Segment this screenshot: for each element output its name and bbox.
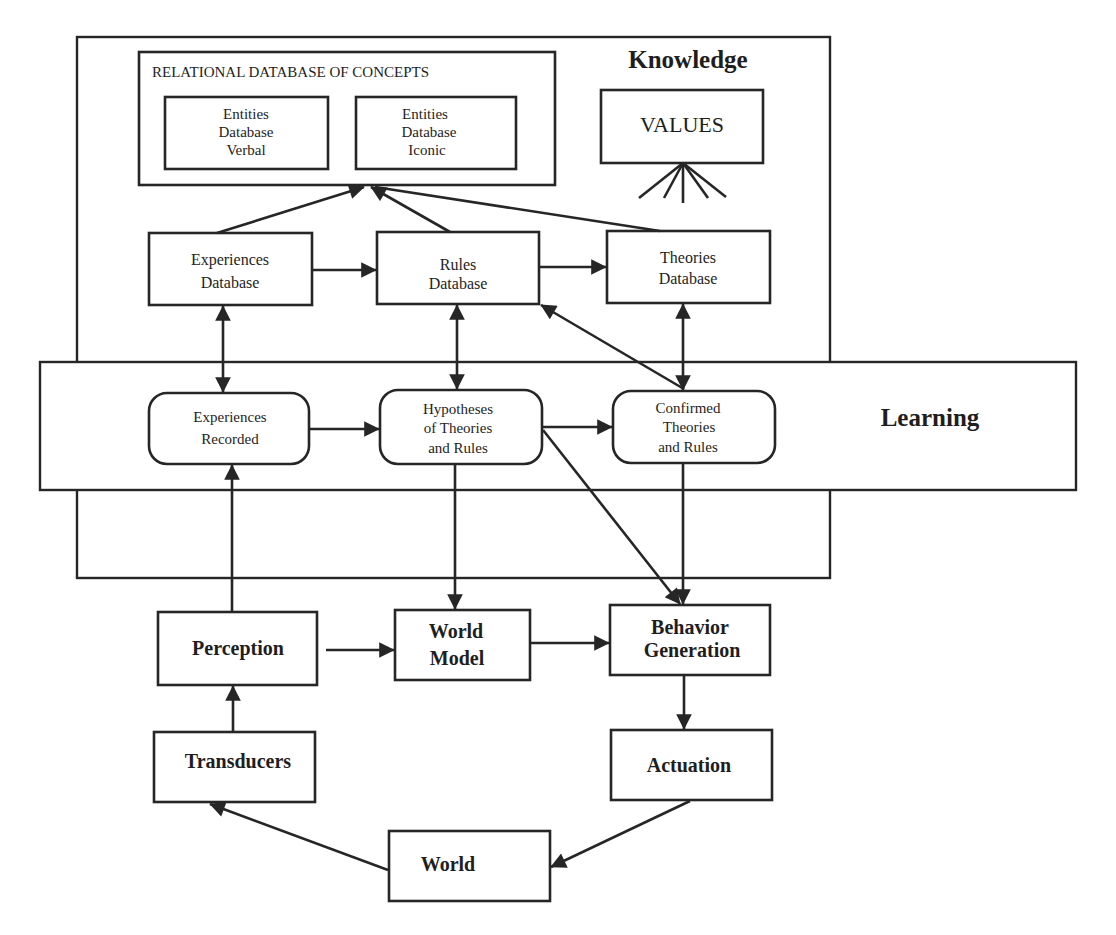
svg-text:Database: Database <box>402 124 457 140</box>
behavior-generation-node: Behavior Generation <box>610 605 770 675</box>
entities-database-iconic: Entities Database Iconic <box>356 97 516 169</box>
svg-text:Theories: Theories <box>663 419 716 435</box>
svg-text:VALUES: VALUES <box>640 112 724 137</box>
svg-text:Database: Database <box>201 274 260 291</box>
svg-text:Rules: Rules <box>440 256 476 273</box>
world-node: World <box>389 831 550 901</box>
edge-actuation-to-world <box>551 801 690 867</box>
theories-database: Theories Database <box>607 231 770 303</box>
svg-text:Perception: Perception <box>192 637 284 660</box>
svg-text:Hypotheses: Hypotheses <box>423 401 493 417</box>
svg-text:and Rules: and Rules <box>658 439 718 455</box>
experiences-recorded: Experiences Recorded <box>149 393 309 464</box>
svg-text:and Rules: and Rules <box>428 440 488 456</box>
svg-text:Confirmed: Confirmed <box>656 400 721 416</box>
svg-text:Entities: Entities <box>223 106 269 122</box>
svg-text:Recorded: Recorded <box>201 431 259 447</box>
transducers-node: Transducers <box>154 732 315 802</box>
svg-text:Theories: Theories <box>660 249 716 266</box>
entities-database-verbal: Entities Database Verbal <box>165 97 328 169</box>
knowledge-title: Knowledge <box>628 46 747 73</box>
svg-text:Database: Database <box>659 270 718 287</box>
perception-node: Perception <box>158 612 317 685</box>
svg-text:Database: Database <box>219 124 274 140</box>
edge-world-to-transducers <box>210 804 388 870</box>
learning-title: Learning <box>881 404 980 431</box>
rules-database: Rules Database <box>377 232 539 304</box>
actuation-node: Actuation <box>611 730 772 800</box>
experiences-database: Experiences Database <box>149 233 312 305</box>
svg-text:World: World <box>421 853 475 875</box>
confirmed-theories-and-rules: Confirmed Theories and Rules <box>613 391 775 463</box>
svg-text:Model: Model <box>430 647 485 669</box>
svg-text:Experiences: Experiences <box>193 409 266 425</box>
svg-text:Iconic: Iconic <box>408 142 446 158</box>
svg-text:Transducers: Transducers <box>185 750 292 772</box>
svg-text:Generation: Generation <box>644 639 741 661</box>
architecture-diagram: Learning Knowledge RELATIONAL DATABASE O… <box>0 0 1116 935</box>
svg-text:Actuation: Actuation <box>647 754 731 776</box>
svg-text:Entities: Entities <box>402 106 448 122</box>
svg-text:Behavior: Behavior <box>651 616 729 638</box>
svg-text:World: World <box>429 620 483 642</box>
world-model-node: World Model <box>395 610 530 680</box>
hypotheses-of-theories-and-rules: Hypotheses of Theories and Rules <box>380 390 542 464</box>
svg-text:Database: Database <box>429 275 488 292</box>
svg-text:Verbal: Verbal <box>226 142 265 158</box>
relational-database-of-concepts: RELATIONAL DATABASE OF CONCEPTS Entities… <box>139 52 555 185</box>
svg-text:Experiences: Experiences <box>191 251 269 269</box>
svg-text:of Theories: of Theories <box>424 420 493 436</box>
relational-db-title: RELATIONAL DATABASE OF CONCEPTS <box>152 64 429 80</box>
